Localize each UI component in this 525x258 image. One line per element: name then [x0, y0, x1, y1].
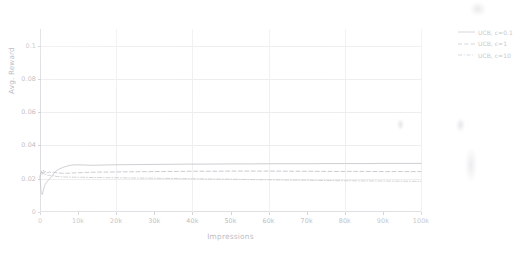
legend-item[interactable]: UCB, c=10 — [458, 50, 525, 60]
legend-line-swatch — [458, 51, 475, 59]
chart-legend: UCB, c=0.1UCB, c=1UCB, c=10 — [458, 27, 525, 62]
chart-figure: Avg. Reward 00.020.040.060.080.1 010k20k… — [0, 0, 525, 258]
x-tick-mark — [307, 212, 308, 215]
legend-label: UCB, c=0.1 — [478, 29, 513, 36]
x-tick-mark — [421, 212, 422, 215]
x-tick-label: 80k — [339, 217, 351, 225]
x-tick-mark — [154, 212, 155, 215]
x-tick-label: 30k — [148, 217, 160, 225]
x-tick-mark — [78, 212, 79, 215]
series-line — [40, 170, 421, 177]
x-tick-mark — [192, 212, 193, 215]
x-tick-label: 40k — [186, 217, 198, 225]
legend-line-swatch — [458, 28, 475, 36]
x-tick-mark — [269, 212, 270, 215]
legend-item[interactable]: UCB, c=1 — [458, 39, 525, 49]
y-tick-label: 0 — [32, 208, 36, 216]
plot-area: 00.020.040.060.080.1 010k20k30k40k50k60k… — [40, 29, 421, 212]
scan-artifact-middle — [456, 118, 465, 132]
y-tick-label: 0.08 — [21, 75, 36, 83]
legend-item[interactable]: UCB, c=0.1 — [458, 27, 525, 37]
x-tick-mark — [383, 212, 384, 215]
x-tick-mark — [345, 212, 346, 215]
x-tick-label: 60k — [263, 217, 275, 225]
legend-label: UCB, c=10 — [478, 52, 511, 59]
x-tick-label: 100k — [413, 217, 429, 225]
x-tick-mark — [231, 212, 232, 215]
x-tick-label: 0 — [38, 217, 42, 225]
series-line — [40, 163, 421, 194]
x-tick-label: 20k — [110, 217, 122, 225]
y-tick-label: 0.1 — [26, 42, 36, 50]
gridline-vertical — [421, 29, 422, 212]
scan-artifact-top — [470, 2, 486, 16]
x-tick-label: 50k — [224, 217, 236, 225]
y-axis-title: Avg. Reward — [7, 47, 16, 94]
legend-line-swatch — [458, 40, 475, 48]
y-tick-label: 0.02 — [21, 175, 36, 183]
x-tick-mark — [116, 212, 117, 215]
x-tick-label: 70k — [301, 217, 313, 225]
x-tick-mark — [40, 212, 41, 215]
scan-artifact-lower — [465, 148, 477, 182]
series-line — [40, 172, 421, 181]
series-lines — [40, 29, 421, 212]
y-tick-label: 0.04 — [21, 141, 36, 149]
x-axis-title: Impressions — [0, 232, 461, 241]
legend-label: UCB, c=1 — [478, 40, 507, 47]
x-tick-label: 90k — [377, 217, 389, 225]
y-tick-label: 0.06 — [21, 108, 36, 116]
x-tick-label: 10k — [72, 217, 84, 225]
